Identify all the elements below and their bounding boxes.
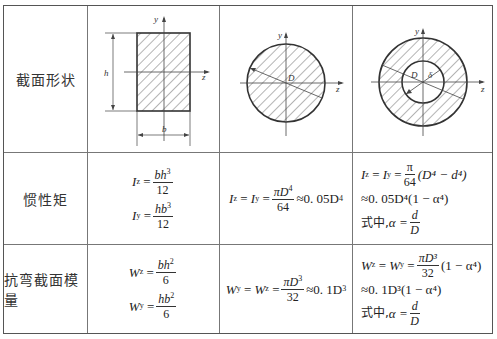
numerator: d <box>410 209 420 223</box>
numerator: πD <box>274 185 289 199</box>
numerator: π <box>405 161 415 175</box>
subscript: y <box>400 261 404 269</box>
denominator: 32 <box>287 290 299 303</box>
symbol: W <box>254 283 265 296</box>
approximation: ≈0. 05D <box>296 192 339 205</box>
formula-Wy: Wy = hb2 6 <box>129 292 178 320</box>
row-label-cell: 截面形状 <box>4 6 87 152</box>
formula-I-solid: Iz = Iy = πD4 64 ≈0. 05D4 <box>229 185 343 213</box>
symbol: W <box>226 283 237 296</box>
outer-diameter-label: D <box>410 70 418 80</box>
exponent: 3 <box>167 201 171 210</box>
exponent: 2 <box>170 257 174 266</box>
hollow-circle-shape-cell: y z D δ <box>353 6 492 152</box>
solid-circle-section-diagram: y z D <box>220 6 352 152</box>
denominator: 12 <box>157 183 169 196</box>
formula-Iz: Iz = bh3 12 <box>132 168 175 196</box>
fraction: hb2 6 <box>156 292 176 320</box>
alpha-symbol: α = <box>389 216 408 229</box>
parenthetical: (D⁴ − d⁴) <box>418 168 467 181</box>
subscript: y <box>387 171 391 179</box>
formula-alpha-definition: 式中, α = d D <box>361 209 422 236</box>
where-label: 式中, <box>361 307 389 319</box>
exponent: 4 <box>339 195 343 203</box>
row-label-moment-of-inertia: 惯性矩 <box>23 189 68 209</box>
where-label: 式中, <box>361 217 389 229</box>
exponent: 3 <box>298 274 302 283</box>
formula-Wz: Wz = bh2 6 <box>129 258 178 286</box>
fraction: d D <box>410 209 420 236</box>
row-label-section-modulus: 抗弯截面模量 <box>4 269 87 309</box>
formula-I-hollow-line1: Iz = Iy = π 64 (D⁴ − d⁴) <box>361 161 467 188</box>
rectangle-section-diagram: y z h b <box>88 6 219 152</box>
numerator: hb <box>155 202 167 216</box>
fraction: hb3 12 <box>153 202 173 230</box>
exponent: 3 <box>167 167 171 176</box>
numerator: bh <box>158 258 170 272</box>
subscript: y <box>237 285 241 293</box>
numerator: hb <box>158 292 170 306</box>
z-axis-label: z <box>335 84 340 94</box>
hollow-circle-section-diagram: y z D δ <box>353 6 492 152</box>
subscript: z <box>372 261 376 269</box>
formula-Iy: Iy = hb3 12 <box>132 202 175 230</box>
symbol: W <box>129 266 140 279</box>
denominator: D <box>410 223 419 236</box>
rectangle-inertia-cell: Iz = bh3 12 Iy = hb3 12 <box>88 153 219 244</box>
exponent: 4 <box>288 184 292 193</box>
solid-circle-shape-cell: y z D <box>220 6 352 152</box>
formula-alpha-definition: 式中, α = d D <box>361 300 422 327</box>
fraction: πD3 32 <box>281 275 304 303</box>
formula-I-hollow-line2: ≈0. 05D⁴(1 − α⁴) <box>361 192 448 205</box>
subscript: y <box>136 212 140 220</box>
denominator: 6 <box>163 273 169 286</box>
width-dim-label: b <box>162 124 167 134</box>
y-axis-label: y <box>277 30 282 40</box>
numerator: πD <box>283 275 298 289</box>
fraction: bh3 12 <box>153 168 173 196</box>
subscript: z <box>265 285 269 293</box>
approximation: ≈0. 1D <box>306 283 342 296</box>
subscript: z <box>233 195 237 203</box>
fraction: πD³ 32 <box>417 252 439 279</box>
symbol: W <box>361 259 372 272</box>
numerator: bh <box>155 168 167 182</box>
symbol: W <box>389 259 400 272</box>
formula-W-hollow-line2: ≈0. 1D³(1 − α⁴) <box>361 283 441 296</box>
subscript: z <box>365 171 369 179</box>
formula-W-solid: Wy = Wz = πD3 32 ≈0. 1D3 <box>226 275 346 303</box>
hollow-circle-inertia-cell: Iz = Iy = π 64 (D⁴ − d⁴) ≈0. 05D⁴(1 − α⁴… <box>353 153 492 244</box>
row-label-cell: 惯性矩 <box>4 153 87 244</box>
alpha-symbol: α = <box>389 307 408 320</box>
z-axis-label: z <box>480 84 485 94</box>
rectangle-shape-cell: y z h b <box>88 6 219 152</box>
denominator: 64 <box>404 175 416 188</box>
z-axis-label: z <box>201 72 206 82</box>
exponent: 2 <box>170 291 174 300</box>
subscript: z <box>136 178 140 186</box>
hollow-circle-modulus-cell: Wz = Wy = πD³ 32 (1 − α⁴) ≈0. 1D³(1 − α⁴… <box>353 245 492 333</box>
fraction: bh2 6 <box>156 258 176 286</box>
numerator: πD³ <box>417 252 439 266</box>
symbol: W <box>129 300 140 313</box>
exponent: 3 <box>342 285 346 293</box>
subscript: y <box>140 302 144 310</box>
denominator: 32 <box>422 266 434 279</box>
numerator: d <box>410 300 420 314</box>
height-dim-label: h <box>104 68 109 78</box>
fraction: d D <box>410 300 420 327</box>
section-properties-table: 截面形状 y z h b <box>3 5 493 334</box>
diameter-label: D <box>287 73 295 83</box>
fraction: π 64 <box>404 161 416 188</box>
rectangle-modulus-cell: Wz = bh2 6 Wy = hb2 6 <box>88 245 219 333</box>
formula-W-hollow-line1: Wz = Wy = πD³ 32 (1 − α⁴) <box>361 252 481 279</box>
parenthetical: (1 − α⁴) <box>441 259 481 272</box>
subscript: y <box>255 195 259 203</box>
fraction: πD4 64 <box>272 185 295 213</box>
denominator: D <box>410 314 419 327</box>
denominator: 6 <box>163 307 169 320</box>
denominator: 12 <box>157 217 169 230</box>
row-label-section-shape: 截面形状 <box>16 69 76 89</box>
y-axis-label: y <box>414 26 419 36</box>
subscript: z <box>140 268 144 276</box>
